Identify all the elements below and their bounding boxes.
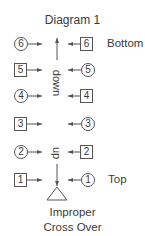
right-square-4: 4 (80, 89, 93, 103)
left-circle-2: 2 (14, 145, 28, 159)
left-circle-6: 6 (14, 37, 28, 51)
left-square-1: 1 (14, 173, 27, 187)
caption-line-1: Improper (0, 206, 145, 218)
right-square-2: 2 (80, 145, 93, 159)
up-label: up (50, 143, 64, 163)
left-square-5: 5 (14, 63, 27, 77)
right-circle-1: 1 (81, 173, 95, 187)
bottom-label: Bottom (107, 37, 143, 49)
right-square-6: 6 (80, 37, 93, 51)
right-circle-5: 5 (81, 63, 95, 77)
top-label: Top (108, 173, 127, 185)
down-label: down (50, 69, 64, 97)
left-square-3: 3 (14, 117, 27, 131)
right-circle-3: 3 (81, 117, 95, 131)
caption-line-2: Cross Over (0, 221, 145, 233)
left-circle-4: 4 (14, 89, 28, 103)
